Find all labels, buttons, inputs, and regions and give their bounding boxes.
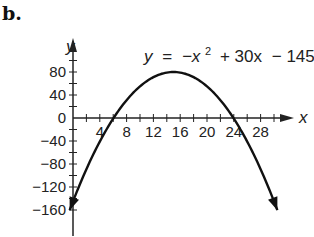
equation-lhs: y — [143, 47, 154, 66]
x-tick-label: 16 — [172, 123, 189, 140]
x-tick-label: 24 — [225, 123, 242, 140]
parabola-chart: 48121620242880400−40−80−120−160 y x y = … — [0, 0, 314, 237]
equation-label: y = −x 2 + 30x − 145 — [143, 40, 314, 66]
curve-right-arrow-icon — [268, 196, 277, 210]
y-tick-label: −40 — [41, 132, 66, 149]
x-tick-label: 20 — [199, 123, 216, 140]
equation-term2: + 30x — [220, 47, 263, 66]
y-tick-label: −80 — [41, 155, 66, 172]
curve-left-arrow-icon — [70, 196, 79, 210]
equation-exponent: 2 — [205, 45, 211, 57]
curve-arrowheads — [70, 196, 278, 210]
x-tick-label: 28 — [252, 123, 269, 140]
y-tick-label: −120 — [32, 178, 66, 195]
x-axis-label: x — [298, 108, 308, 127]
y-tick-label: 80 — [49, 63, 66, 80]
equation-equals: = — [162, 47, 172, 66]
x-axis-arrow-icon — [280, 114, 294, 122]
parabola-curve — [70, 72, 278, 210]
tick-labels: 48121620242880400−40−80−120−160 — [32, 63, 269, 218]
x-tick-label: 8 — [122, 123, 130, 140]
y-tick-label: 0 — [58, 109, 66, 126]
equation-term3: − 145 — [272, 47, 314, 66]
y-tick-label: −160 — [32, 201, 66, 218]
x-tick-label: 12 — [145, 123, 162, 140]
equation-term1: −x — [182, 47, 201, 66]
y-axis-label: y — [65, 37, 76, 56]
y-tick-label: 40 — [49, 86, 66, 103]
